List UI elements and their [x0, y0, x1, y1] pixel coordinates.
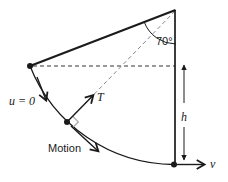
velocity-label: v: [210, 157, 216, 171]
initial-direction-arrow: [37, 77, 46, 100]
tension-label: T: [97, 90, 105, 104]
bob-dot: [64, 119, 70, 125]
right-angle-marker: [73, 116, 79, 127]
pendulum-diagram: 70° u = 0 T Motion h v: [0, 0, 228, 182]
initial-velocity-label: u = 0: [9, 94, 35, 108]
height-label: h: [181, 110, 187, 124]
release-point-dot: [27, 63, 33, 69]
cord-line: [30, 10, 176, 66]
lowest-point-dot: [171, 162, 177, 168]
tension-arrow: [67, 96, 93, 123]
motion-label: Motion: [48, 142, 81, 154]
diagram-canvas: 70° u = 0 T Motion h v: [0, 0, 228, 182]
angle-label: 70°: [156, 35, 173, 47]
